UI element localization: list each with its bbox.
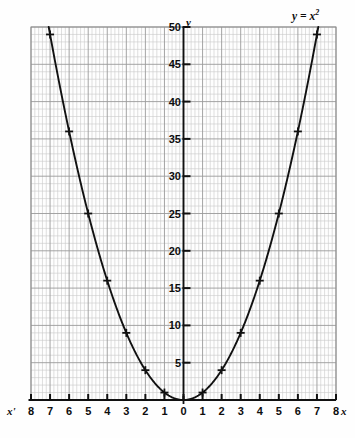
chart-figure: 5101520253035404550 87654321012345678 y … xyxy=(0,0,355,438)
y-tick-label: 25 xyxy=(150,209,181,220)
negative-sign: 4 xyxy=(104,406,110,417)
y-tick-label: 50 xyxy=(150,22,181,33)
equation-label: y = x2 xyxy=(292,9,319,22)
y-tick-label: 15 xyxy=(150,283,181,294)
x-tick-label: 7 xyxy=(40,406,60,417)
x-tick-label: 3 xyxy=(116,406,136,417)
equation-text: y = x xyxy=(292,10,315,22)
y-tick-label: 30 xyxy=(150,171,181,182)
x-tick-label: 3 xyxy=(231,406,251,417)
y-tick-label: 35 xyxy=(150,134,181,145)
negative-sign: 8 xyxy=(28,406,34,417)
y-tick-label: 10 xyxy=(150,320,181,331)
x-tick-label: 0 xyxy=(174,406,194,417)
y-axis-title: y xyxy=(186,17,191,28)
y-tick-label: 20 xyxy=(150,246,181,257)
x-tick-label: 2 xyxy=(135,406,155,417)
x-tick-label: 1 xyxy=(193,406,213,417)
negative-sign: 2 xyxy=(142,406,148,417)
x-tick-label: 4 xyxy=(97,406,117,417)
x-tick-label: 5 xyxy=(269,406,289,417)
x-tick-label: 5 xyxy=(78,406,98,417)
x-axis-title-left: x' xyxy=(7,406,16,417)
negative-sign: 5 xyxy=(85,406,91,417)
negative-sign: 1 xyxy=(161,406,167,417)
x-tick-label: 4 xyxy=(250,406,270,417)
x-tick-label: 8 xyxy=(21,406,41,417)
y-tick-label: 40 xyxy=(150,97,181,108)
y-tick-label: 5 xyxy=(150,358,181,369)
x-tick-label: 1 xyxy=(154,406,174,417)
y-tick-label: 45 xyxy=(150,59,181,70)
x-tick-label: 2 xyxy=(212,406,232,417)
x-tick-label: 6 xyxy=(288,406,308,417)
x-tick-label: 6 xyxy=(59,406,79,417)
equation-exponent: 2 xyxy=(315,8,319,17)
negative-sign: 3 xyxy=(123,406,129,417)
x-tick-label: 7 xyxy=(307,406,327,417)
negative-sign: 7 xyxy=(47,406,53,417)
x-axis-title: x xyxy=(341,406,347,417)
negative-sign: 6 xyxy=(66,406,72,417)
